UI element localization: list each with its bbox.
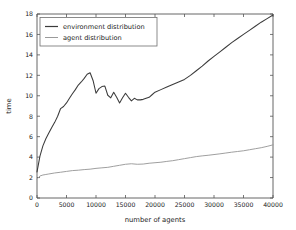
- legend-label-0: environment distribution: [63, 23, 145, 31]
- legend-label-1: agent distribution: [63, 34, 122, 42]
- y-axis-title: time: [5, 98, 13, 113]
- y-tick-label: 8: [29, 113, 33, 120]
- y-tick-label: 6: [29, 133, 33, 140]
- x-tick-label: 25000: [175, 201, 195, 208]
- y-tick-label: 2: [29, 174, 33, 181]
- chart-figure: 0500010000150002000025000300003500040000…: [0, 0, 296, 230]
- y-tick-label: 14: [25, 51, 33, 58]
- y-tick-label: 12: [25, 72, 33, 79]
- x-tick-label: 30000: [204, 201, 224, 208]
- x-axis-title: number of agents: [125, 216, 186, 224]
- x-tick-label: 15000: [116, 201, 136, 208]
- x-tick-label: 35000: [234, 201, 254, 208]
- x-tick-label: 0: [35, 201, 39, 208]
- line-chart: 0500010000150002000025000300003500040000…: [0, 0, 296, 230]
- x-tick-label: 40000: [263, 201, 283, 208]
- x-tick-labels: 0500010000150002000025000300003500040000: [35, 201, 283, 208]
- y-tick-label: 16: [25, 31, 33, 38]
- x-tick-label: 20000: [145, 201, 165, 208]
- x-tick-label: 5000: [59, 201, 75, 208]
- y-tick-label: 18: [25, 10, 33, 17]
- x-tick-label: 10000: [86, 201, 106, 208]
- y-tick-label: 10: [25, 92, 33, 99]
- chart-legend: environment distributionagent distributi…: [40, 18, 157, 47]
- y-tick-label: 4: [29, 153, 33, 160]
- y-tick-label: 0: [29, 194, 33, 201]
